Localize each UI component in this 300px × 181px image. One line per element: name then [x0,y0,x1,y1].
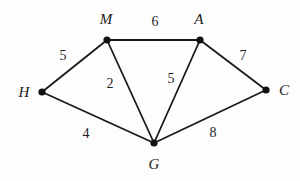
graph-node-c [262,86,269,93]
graph-edge-a-c [200,40,266,90]
node-label-h: H [18,85,29,100]
node-label-m: M [100,12,113,27]
node-label-a: A [194,12,203,27]
graph-edge-a-g [154,40,200,143]
graph-edge-m-g [107,40,154,143]
graph-node-a [196,36,203,43]
edge-weight-a-c: 7 [240,49,247,63]
edge-weight-a-g: 5 [168,72,175,86]
edge-weight-h-g: 4 [83,127,90,141]
node-label-c: C [279,83,289,98]
edge-weight-m-a: 6 [152,15,159,29]
graph-node-m [103,36,110,43]
nodes-layer [38,36,269,146]
edge-weight-h-m: 5 [60,49,67,63]
graph-edge-h-g [42,92,154,143]
graph-canvas [0,0,300,181]
graph-diagram: 5674258 HMACG [0,0,300,181]
node-label-g: G [148,157,159,172]
graph-node-g [150,139,157,146]
edges-layer [42,40,266,143]
graph-edge-h-m [42,40,107,92]
edge-weight-m-g: 2 [107,77,114,91]
graph-node-h [38,88,45,95]
edge-weight-g-c: 8 [210,126,217,140]
